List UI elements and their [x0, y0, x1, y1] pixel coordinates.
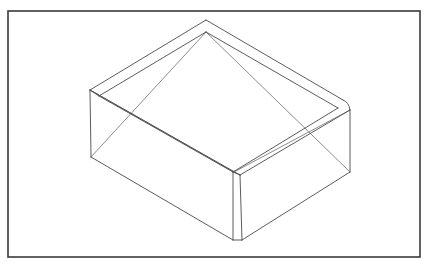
base-edge-front-left — [91, 157, 233, 240]
vertical-edge-left — [90, 90, 91, 157]
inner-rim-front-right — [233, 108, 338, 172]
isometric-box-drawing — [0, 0, 428, 267]
inner-rim-front-left — [99, 96, 233, 172]
hidden-edge-right-diagonal — [234, 110, 350, 172]
base-edge-front-right — [242, 172, 350, 240]
rim-thickness-front — [233, 172, 240, 175]
outer-rim-corner-bevel — [343, 100, 350, 110]
inner-rim-back-left — [99, 32, 206, 96]
box-wireframe — [90, 20, 350, 240]
hidden-edge-base-back-left — [91, 32, 206, 157]
rim-thickness-left — [90, 90, 99, 96]
outer-rim-back-right — [206, 20, 343, 100]
outer-rim-front-right — [240, 110, 350, 175]
outer-rim-front-left — [90, 90, 240, 175]
drawing-canvas — [0, 0, 428, 267]
vertical-edge-front-outer — [240, 175, 242, 240]
outer-rim-back-left — [90, 20, 206, 90]
drawing-border — [8, 11, 420, 257]
